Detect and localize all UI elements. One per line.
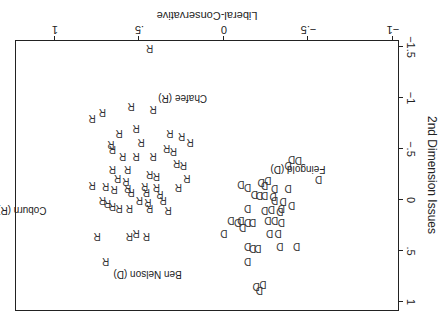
data-point-D: D — [276, 241, 283, 251]
data-point-D: D — [266, 228, 273, 238]
y-tick-label: −.5 — [405, 141, 417, 157]
data-point-R: R — [89, 113, 96, 123]
x-tick — [392, 36, 393, 40]
data-point-R: R — [143, 187, 150, 197]
x-tick — [223, 36, 224, 40]
scatter-figure: RRRRRRRRRRRRRRRRRRRRRRRRRRRRRRRRRRRRRRRR… — [0, 0, 445, 322]
data-point-D: D — [285, 183, 292, 193]
y-tick-label: .5 — [405, 246, 417, 255]
data-point-D: D — [239, 222, 246, 232]
annotation-label: Feingold (D) — [270, 164, 325, 174]
x-tick-label: −1 — [387, 24, 400, 36]
data-point-D: D — [249, 217, 256, 227]
data-point-R: R — [133, 151, 140, 161]
data-point-R: R — [126, 203, 133, 213]
data-point-R: R — [111, 184, 118, 194]
data-point-R: R — [102, 181, 109, 191]
plot-frame — [15, 40, 399, 311]
y-tick-label: −1 — [405, 92, 417, 105]
y-tick — [399, 46, 403, 47]
data-point-D: D — [278, 217, 285, 227]
data-point-D: D — [254, 243, 261, 253]
data-point-R: R — [119, 151, 126, 161]
data-point-R: R — [99, 107, 106, 117]
data-point-R: R — [116, 203, 123, 213]
data-point-R: R — [166, 128, 173, 138]
x-tick — [139, 36, 140, 40]
data-point-D: D — [268, 204, 275, 214]
data-point-D: D — [244, 203, 251, 213]
x-tick-label: 0 — [221, 24, 227, 36]
data-point-R: R — [124, 164, 131, 174]
data-point-R: R — [160, 195, 167, 205]
x-tick-label: 1 — [52, 24, 58, 36]
y-tick — [399, 148, 403, 149]
data-point-R: R — [183, 173, 190, 183]
data-point-R: R — [165, 205, 172, 215]
data-point-D: D — [251, 189, 258, 199]
data-point-R: R — [133, 123, 140, 133]
data-point-D: D — [264, 175, 271, 185]
data-point-R: R — [153, 171, 160, 181]
data-point-R: R — [114, 173, 121, 183]
data-point-D: D — [220, 228, 227, 238]
data-point-D: D — [274, 228, 281, 238]
data-point-R: R — [127, 187, 134, 197]
x-tick-label: .5 — [135, 24, 144, 36]
annotation-label: Coburn (R) — [0, 205, 47, 215]
data-point-R: R — [149, 151, 156, 161]
y-tick-label: −1.5 — [405, 36, 417, 58]
data-point-R: R — [178, 131, 185, 141]
data-point-R: R — [143, 231, 150, 241]
data-point-R: R — [94, 231, 101, 241]
data-point-R: R — [102, 256, 109, 266]
x-tick — [308, 36, 309, 40]
x-tick-label: −.5 — [301, 24, 317, 36]
data-point-R: R — [180, 160, 187, 170]
annotation-label: Chafee (R) — [158, 93, 207, 103]
data-point-D: D — [259, 279, 266, 289]
y-tick — [399, 199, 403, 200]
y-axis-label: 2nd Dimension Issues — [425, 116, 439, 234]
data-point-D: D — [261, 190, 268, 200]
data-point-D: D — [244, 256, 251, 266]
data-point-D: D — [288, 200, 295, 210]
y-tick-label: 1 — [405, 299, 417, 305]
y-tick — [399, 250, 403, 251]
x-tick — [54, 36, 55, 40]
data-point-R: R — [127, 101, 134, 111]
data-point-R: R — [109, 144, 116, 154]
y-tick-label: 0 — [405, 197, 417, 203]
data-point-D: D — [293, 241, 300, 251]
data-point-R: R — [146, 43, 153, 53]
data-point-R: R — [170, 146, 177, 156]
x-axis-label: Liberal-Conservative — [157, 10, 258, 22]
data-point-R: R — [136, 195, 143, 205]
y-tick — [399, 301, 403, 302]
data-point-R: R — [133, 228, 140, 238]
y-tick — [399, 97, 403, 98]
data-point-R: R — [89, 180, 96, 190]
data-point-R: R — [138, 137, 145, 147]
data-point-R: R — [116, 128, 123, 138]
data-point-R: R — [149, 104, 156, 114]
annotation-label: Ben Nelson (D) — [113, 269, 181, 279]
data-point-R: R — [175, 182, 182, 192]
data-point-R: R — [146, 203, 153, 213]
data-point-R: R — [187, 137, 194, 147]
data-point-D: D — [315, 174, 322, 184]
